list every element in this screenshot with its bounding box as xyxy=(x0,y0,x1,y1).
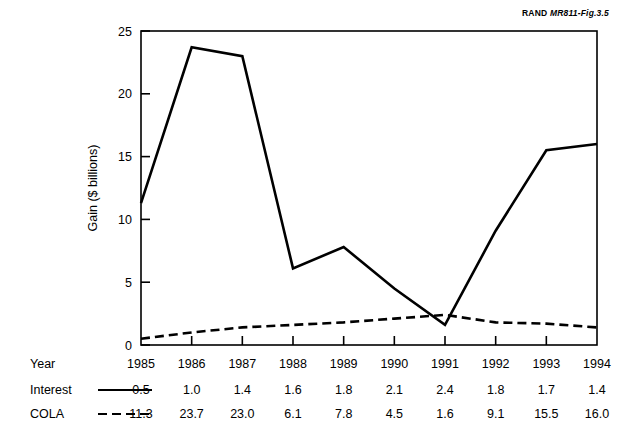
table-cell: 16.0 xyxy=(585,407,609,421)
table-cell: 1991 xyxy=(431,357,459,371)
table-cell: 1.4 xyxy=(234,383,251,397)
table-cell: 1.6 xyxy=(284,383,301,397)
table-cell: 4.5 xyxy=(386,407,403,421)
table-cell: 9.1 xyxy=(487,407,504,421)
table-cell: 1.4 xyxy=(588,383,605,397)
table-cell: 1.0 xyxy=(183,383,200,397)
table-cell: 1987 xyxy=(228,357,256,371)
table-cell: 2.1 xyxy=(386,383,403,397)
data-table: Year198519861987198819891990199119921993… xyxy=(0,0,627,433)
table-cell: 1.8 xyxy=(487,383,504,397)
table-row-label: COLA xyxy=(30,407,65,421)
table-cell: 1.6 xyxy=(436,407,453,421)
table-cell: 1994 xyxy=(583,357,611,371)
table-cell: 11.3 xyxy=(129,407,152,421)
table-cell: 1990 xyxy=(380,357,408,371)
table-row-label: Year xyxy=(30,357,55,371)
figure-root: RAND MR811-Fig.3.5 0510152025Gain ($ bil… xyxy=(0,0,627,433)
table-cell: 1985 xyxy=(127,357,155,371)
table-cell: 1992 xyxy=(482,357,510,371)
table-cell: 7.8 xyxy=(335,407,352,421)
table-cell: 2.4 xyxy=(436,383,453,397)
table-cell: 15.5 xyxy=(534,407,558,421)
table-cell: 1.7 xyxy=(538,383,555,397)
table-row-label: Interest xyxy=(30,383,72,397)
table-cell: 1.8 xyxy=(335,383,352,397)
table-cell: 0.5 xyxy=(132,383,149,397)
table-cell: 1988 xyxy=(279,357,307,371)
table-cell: 1993 xyxy=(532,357,560,371)
table-cell: 6.1 xyxy=(284,407,301,421)
table-cell: 1989 xyxy=(330,357,358,371)
table-cell: 1986 xyxy=(178,357,206,371)
table-cell: 23.7 xyxy=(179,407,203,421)
table-cell: 23.0 xyxy=(230,407,254,421)
